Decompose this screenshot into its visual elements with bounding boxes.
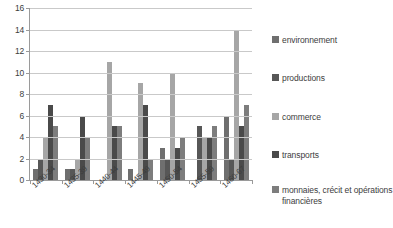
y-tick-label: 14 (15, 25, 24, 34)
legend-item[interactable]: environnement (272, 35, 393, 46)
legend-swatch-icon (272, 113, 279, 120)
y-tick-label: 8 (19, 90, 24, 99)
y-tick-label: 12 (15, 47, 24, 56)
y-axis: 1614121086420 (0, 0, 24, 180)
gridline (30, 159, 252, 160)
y-tickmark (26, 94, 30, 95)
legend-item[interactable]: transports (272, 150, 393, 161)
legend-label: productions (282, 73, 325, 84)
y-tickmark (26, 8, 30, 9)
y-tick-label: 4 (19, 133, 24, 142)
legend-label: environnement (282, 35, 337, 46)
legend-swatch-icon (272, 36, 279, 43)
bar-chart: 1614121086420 1430-341435-391440-441445-… (0, 0, 393, 228)
y-tick-label: 10 (15, 68, 24, 77)
y-tickmark (26, 51, 30, 52)
legend-item[interactable]: commerce (272, 112, 393, 123)
x-tickmark (252, 180, 253, 184)
y-tickmark (26, 73, 30, 74)
legend-item[interactable]: productions (272, 73, 393, 84)
gridline (30, 30, 252, 31)
legend-swatch-icon (272, 151, 279, 158)
y-tick-label: 0 (19, 176, 24, 185)
legend-label: commerce (282, 112, 321, 123)
legend-label: transports (282, 150, 319, 161)
gridline (30, 137, 252, 138)
gridline (30, 73, 252, 74)
gridline (30, 51, 252, 52)
y-tick-label: 6 (19, 111, 24, 120)
legend-label: monnaies, crécit et opérations financièr… (282, 185, 393, 206)
chart-legend: environnementproductionscommercetranspor… (270, 30, 393, 205)
y-tickmark (26, 116, 30, 117)
x-axis: 1430-341435-391440-441445-491450-541455-… (29, 181, 251, 228)
y-tickmark (26, 159, 30, 160)
legend-item[interactable]: monnaies, crécit et opérations financièr… (272, 185, 393, 206)
plot-wrapper: 1614121086420 1430-341435-391440-441445-… (0, 0, 270, 228)
gridline (30, 8, 252, 9)
y-tickmark (26, 30, 30, 31)
legend-swatch-icon (272, 186, 279, 193)
y-tick-label: 2 (19, 154, 24, 163)
y-tick-label: 16 (15, 4, 24, 13)
gridline (30, 116, 252, 117)
legend-swatch-icon (272, 74, 279, 81)
gridline (30, 94, 252, 95)
y-tickmark (26, 137, 30, 138)
plot-area (29, 8, 252, 181)
